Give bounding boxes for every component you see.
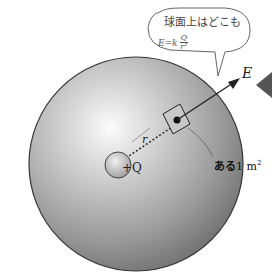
- area-prefix: ある: [214, 160, 236, 173]
- area-label: ある1 m2: [214, 157, 261, 173]
- formula-fraction: Q r²: [180, 34, 189, 51]
- radius-label: r: [142, 133, 147, 146]
- area-exponent: 2: [257, 159, 261, 167]
- field-formula: E=k Q r²: [158, 34, 188, 51]
- formula-lhs: E=k: [158, 38, 178, 48]
- arrowhead-icon: [228, 78, 240, 89]
- formula-denominator: r²: [180, 43, 187, 51]
- charge-label: +Q: [122, 161, 142, 175]
- area-value: 1 m: [236, 160, 257, 173]
- diagram-canvas: [0, 0, 272, 274]
- bubble-text: 球面上はどこも: [164, 13, 241, 29]
- field-label: E: [242, 65, 252, 81]
- side-marker-icon: [256, 72, 272, 98]
